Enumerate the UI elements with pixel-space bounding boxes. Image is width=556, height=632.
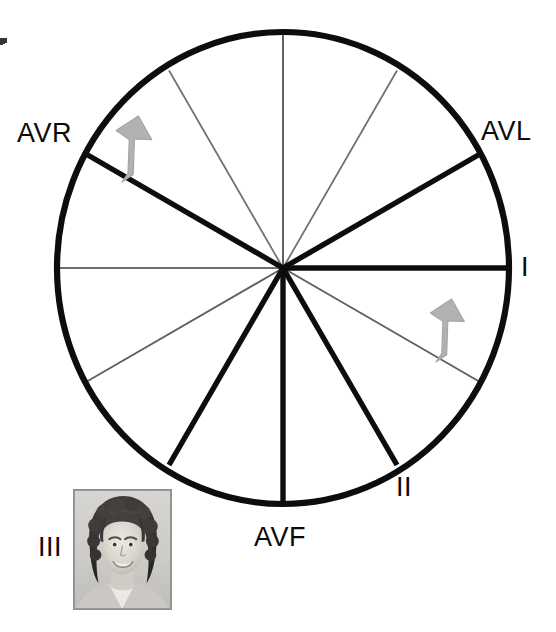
lower-right-vector-arrow	[429, 298, 465, 363]
axis-label-lead-i: I	[521, 254, 529, 281]
minor-axis-neg60	[283, 71, 397, 269]
major-axis-lead-iii	[169, 268, 283, 465]
major-axis-lead-ii	[283, 268, 397, 465]
axis-label-avf: AVF	[254, 524, 306, 551]
portrait-photo	[73, 489, 172, 610]
vector-arrow-group	[114, 115, 465, 363]
figure-canvas: AVR AVL I II AVF III	[0, 0, 556, 632]
minor-axis-neg120	[169, 71, 283, 269]
major-axis-avl	[283, 154, 480, 268]
major-axis-avr	[86, 154, 283, 268]
minor-axis-30	[283, 268, 480, 382]
minor-axis-150	[86, 268, 283, 382]
axis-label-lead-ii: II	[396, 474, 412, 501]
axis-label-avl: AVL	[481, 118, 532, 145]
axis-label-lead-iii: III	[38, 534, 62, 561]
portrait-photo-image	[74, 490, 171, 609]
scan-artifact-mark	[0, 38, 7, 51]
axis-label-avr: AVR	[17, 120, 72, 147]
minor-axis-group	[55, 33, 480, 382]
